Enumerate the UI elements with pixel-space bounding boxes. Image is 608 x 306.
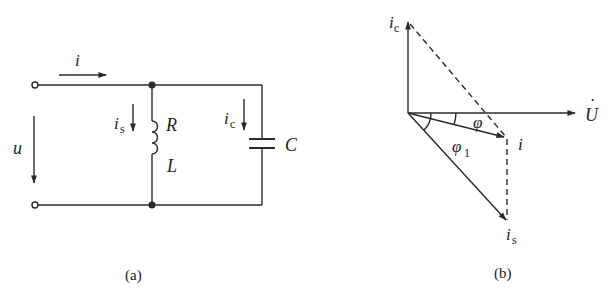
- inductor-coil: [152, 121, 158, 154]
- label-ic-sub: c: [230, 117, 235, 131]
- angle-arc-phi1: [424, 113, 431, 130]
- label-is: i: [114, 114, 119, 133]
- caption-a: (a): [125, 267, 142, 284]
- circuit-diagram: [32, 75, 275, 209]
- caption-b: (b): [494, 265, 512, 282]
- label-is-sub: s: [120, 122, 125, 136]
- label-L: L: [166, 156, 177, 176]
- label-phasor-is-sub: s: [512, 233, 517, 247]
- label-phi1: φ: [452, 137, 461, 156]
- label-ic: i: [224, 109, 229, 128]
- label-C: C: [285, 135, 298, 155]
- label-phasor-U-dot: ·: [590, 92, 595, 109]
- label-i: i: [75, 51, 80, 70]
- node-top: [149, 82, 156, 89]
- terminal-bottom: [32, 202, 38, 208]
- phasor-diagram: [408, 22, 575, 220]
- label-phasor-i: i: [518, 135, 523, 154]
- label-phi: φ: [473, 113, 482, 132]
- phasor-is: [408, 113, 506, 220]
- label-phi1-sub: 1: [464, 146, 470, 160]
- angle-arc-phi: [454, 113, 456, 125]
- dashed-ic-to-i: [410, 24, 506, 137]
- label-u: u: [13, 138, 22, 158]
- label-R: R: [165, 115, 177, 135]
- figure-canvas: i u i s R L i c C (a) i c U · φ i φ 1 i …: [0, 0, 608, 306]
- label-phasor-ic-sub: c: [394, 21, 399, 35]
- label-phasor-is: i: [506, 225, 511, 244]
- terminal-top: [32, 82, 38, 88]
- node-bottom: [149, 202, 156, 209]
